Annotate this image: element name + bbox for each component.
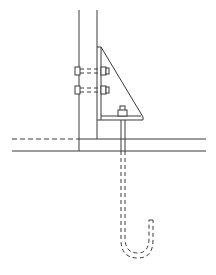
side-bolt-lower	[75, 86, 109, 94]
side-bolt-upper	[75, 67, 109, 75]
bolt-head-icon	[75, 67, 80, 75]
j-hook-anchor-bolt	[118, 106, 153, 258]
anchor-nut-icon	[118, 110, 127, 116]
anchor-hook-inner	[125, 151, 149, 253]
bolt-end-icon	[106, 87, 109, 93]
bolt-head-icon	[75, 86, 80, 94]
anchor-hook-outer	[121, 151, 153, 258]
steel-column	[79, 10, 97, 151]
nut-icon	[101, 86, 106, 94]
bolt-end-icon	[106, 68, 109, 74]
foundation-lines	[12, 139, 206, 151]
nut-icon	[101, 67, 106, 75]
